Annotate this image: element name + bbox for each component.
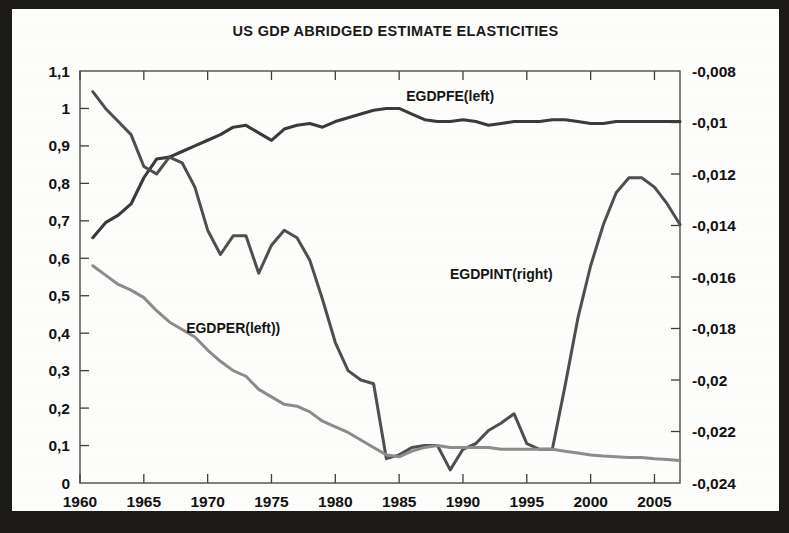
- figure-canvas: US GDP ABRIDGED ESTIMATE ELASTICITIES 00…: [12, 9, 779, 511]
- axis-tick-label: 0,6: [48, 250, 70, 267]
- axis-tick-label: -0,014: [692, 217, 736, 234]
- axis-tick-label: 1,1: [48, 63, 70, 80]
- axis-tick-label: 1975: [254, 493, 289, 510]
- series-label: EGDPFE(left): [406, 88, 494, 104]
- axis-tick-label: 2000: [573, 493, 607, 510]
- axis-tick-label: -0,01: [692, 114, 728, 131]
- axis-tick-label: 1965: [127, 493, 162, 510]
- series-line-egdpfeleft: [93, 108, 680, 237]
- axis-tick-label: 1990: [446, 493, 480, 510]
- series-line-egdpintright: [93, 92, 680, 470]
- axis-tick-label: -0,008: [692, 63, 736, 80]
- right-axis-tick-labels: -0,024-0,022-0,02-0,018-0,016-0,014-0,01…: [692, 63, 736, 492]
- x-axis-tick-labels: 1960196519701975198019851990199520002005: [63, 493, 672, 510]
- series-line-egdperleft: [93, 266, 680, 461]
- axis-tick-label: 1970: [190, 493, 224, 510]
- axis-tick-label: -0,016: [692, 269, 736, 286]
- axis-tick-label: -0,018: [692, 320, 736, 337]
- axis-tick-label: 2005: [637, 493, 672, 510]
- axis-tick-label: -0,024: [692, 475, 736, 492]
- axis-tick-label: 0: [61, 475, 70, 492]
- axis-tick-label: -0,012: [692, 166, 736, 183]
- axis-tick-label: 1985: [382, 493, 417, 510]
- axis-tick-label: 0,9: [48, 137, 70, 154]
- axis-tick-label: 0,8: [48, 175, 70, 192]
- axis-tick-label: 0,3: [48, 362, 70, 379]
- left-axis-tick-labels: 00,10,20,30,40,50,60,70,80,911,1: [48, 63, 70, 492]
- axis-tick-label: -0,022: [692, 423, 736, 440]
- axis-tick-label: 0,4: [48, 325, 70, 342]
- series-label: EGDPINT(right): [450, 266, 553, 282]
- axis-tick-label: 0,2: [48, 400, 70, 417]
- chart-plot: 00,10,20,30,40,50,60,70,80,911,1 -0,024-…: [12, 9, 779, 511]
- axis-tick-label: 1995: [510, 493, 545, 510]
- axis-tick-label: 1980: [318, 493, 352, 510]
- axis-tick-label: 1: [61, 100, 70, 117]
- axis-tick-label: 0,5: [48, 287, 70, 304]
- axis-tick-label: 1960: [63, 493, 97, 510]
- axis-tick-label: 0,1: [48, 437, 70, 454]
- series-lines: [93, 92, 680, 470]
- axis-tick-label: 0,7: [48, 212, 70, 229]
- axis-tick-label: -0,02: [692, 372, 727, 389]
- series-label: EGDPER(left)): [186, 320, 280, 336]
- figure-frame: US GDP ABRIDGED ESTIMATE ELASTICITIES 00…: [0, 0, 789, 533]
